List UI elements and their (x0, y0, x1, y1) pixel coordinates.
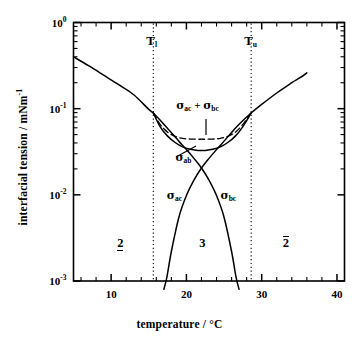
y-tick-exponent: -1 (60, 101, 66, 110)
marker-label-base: T (146, 33, 155, 48)
y-tick-label: 10-1 (25, 101, 67, 115)
y-tick-exponent: -2 (60, 187, 66, 196)
y-tick-mantissa: 10 (52, 16, 63, 28)
x-tick-label: 30 (242, 288, 282, 300)
x-tick-label: 20 (166, 288, 206, 300)
phase-2-overline: 2 (283, 236, 289, 251)
tick-marks (74, 23, 345, 282)
x-tick-label: 40 (317, 288, 357, 300)
annotation-sigma-ab: σab (175, 151, 191, 165)
y-axis-title-exponent: -1 (15, 88, 24, 95)
y-tick-mantissa: 10 (49, 102, 60, 114)
curve-sigma_ac (74, 57, 240, 290)
y-tick-mantissa: 10 (49, 188, 60, 200)
sigma-glyph: σ (175, 151, 183, 164)
sigma-subscript: bc (229, 194, 237, 203)
y-tick-exponent: -3 (60, 273, 66, 282)
marker-label-t-u: Tu (244, 33, 257, 49)
plot-frame (74, 23, 345, 282)
data-curves (74, 57, 307, 290)
phase-3: 3 (199, 236, 205, 251)
figure-root: interfacial tension / mNm-1 temperature … (0, 0, 359, 341)
phase-label-text: 2 (117, 237, 123, 251)
x-axis-title: temperature / °C (0, 318, 359, 330)
plus-sign: + (191, 99, 203, 111)
sigma-glyph: σ (221, 189, 229, 202)
marker-label-t-l: Tl (146, 33, 157, 49)
y-tick-label: 100 (25, 15, 67, 29)
sigma-subscript-2: bc (211, 103, 219, 112)
sigma-glyph: σ (167, 189, 175, 202)
x-tick-label: 10 (91, 288, 131, 300)
y-axis-title: interfacial tension / mNm-1 (15, 57, 29, 257)
marker-label-subscript: l (155, 40, 157, 49)
y-tick-exponent: 0 (63, 15, 67, 24)
phase-2-underline: 2 (117, 236, 123, 251)
marker-label-subscript: u (253, 40, 257, 49)
sigma-subscript: ab (184, 156, 192, 165)
y-tick-label: 10-3 (25, 273, 67, 287)
annotation-sigma-bc: σbc (221, 189, 237, 203)
marker-label-base: T (244, 33, 253, 48)
y-tick-mantissa: 10 (49, 275, 60, 287)
annotation-sigma-ac-plus-bc: σac + σbc (176, 99, 219, 113)
annotation-sigma-ac: σac (167, 189, 182, 203)
y-axis-title-text: interfacial tension / mNm (17, 96, 29, 226)
phase-label-text: 3 (199, 236, 205, 250)
y-tick-label: 10-2 (25, 187, 67, 201)
phase-label-text: 2 (283, 236, 289, 250)
sigma-subscript: ac (175, 194, 182, 203)
